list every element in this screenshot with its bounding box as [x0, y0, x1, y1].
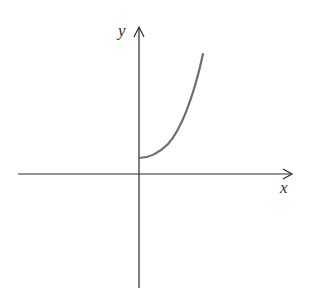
- function-graph: [0, 0, 310, 294]
- function-curve: [139, 54, 203, 158]
- y-axis-label: y: [118, 22, 126, 39]
- x-axis-label: x: [280, 179, 288, 196]
